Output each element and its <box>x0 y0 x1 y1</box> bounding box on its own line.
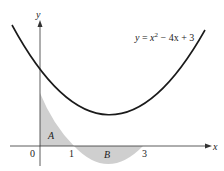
tick-label-1: 1 <box>69 148 74 159</box>
region-a-shading <box>40 93 74 146</box>
y-axis-arrow-icon <box>38 20 43 27</box>
x-axis-arrow-icon <box>205 144 212 149</box>
x-axis-label: x <box>212 141 218 152</box>
equation-label: y = x2 − 4x + 3 <box>134 31 194 43</box>
region-b-label: B <box>104 149 110 160</box>
region-a-label: A <box>47 130 55 141</box>
tick-label-0: 0 <box>30 148 35 159</box>
parabola-diagram: y x 0 1 3 A B y = x2 − 4x + 3 <box>0 0 224 171</box>
tick-label-3: 3 <box>142 148 147 159</box>
y-axis-label: y <box>35 9 41 20</box>
